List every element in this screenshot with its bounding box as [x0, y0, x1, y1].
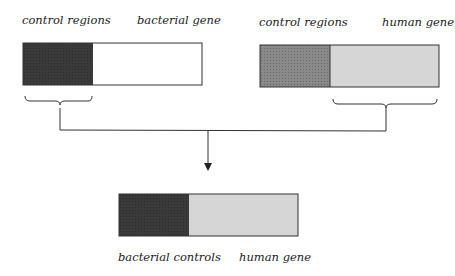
right-brace: [333, 99, 437, 108]
result-gene-region: [189, 194, 298, 236]
bacterial-gene-region: [93, 43, 202, 85]
left-brace: [25, 96, 92, 105]
recombinant-construct: [119, 194, 298, 236]
bacterial-construct: [23, 43, 202, 85]
connector-line: [60, 108, 386, 131]
arrow-head-icon: [204, 163, 212, 171]
diagram-graphics: [0, 0, 455, 276]
human-gene-region: [330, 45, 439, 87]
human-construct: [260, 45, 439, 87]
